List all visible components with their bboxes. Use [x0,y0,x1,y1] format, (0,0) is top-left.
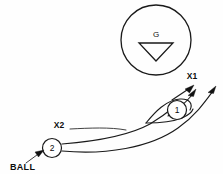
node-1-label: 1 [175,105,180,115]
path-x2-label: X2 [54,120,65,130]
arrowhead-x1-outer [208,86,216,94]
path-x2-upper [62,107,174,144]
goal-label: G [153,30,159,39]
diagram-canvas: G 1 2 X1 X2 BALL [0,0,223,174]
node-2-label: 2 [50,143,55,153]
tactics-diagram: G 1 2 X1 X2 BALL [0,0,223,174]
down-triangle-icon [139,43,173,61]
path-x2-leader [70,128,126,130]
path-x1-label: X1 [187,71,198,81]
path-x1-lower [62,91,213,152]
ball-label: BALL [10,162,35,172]
goal-circle [121,5,191,75]
